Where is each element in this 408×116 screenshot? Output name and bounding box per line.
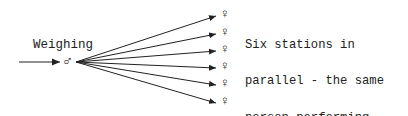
- female-symbol-icon: ♀: [221, 77, 229, 90]
- female-symbol-icon: ♀: [221, 8, 229, 21]
- female-symbol-icon: ♀: [221, 95, 229, 108]
- weighing-label: Weighing: [33, 38, 93, 52]
- female-symbol-icon: ♀: [221, 43, 229, 56]
- male-symbol-icon: ♂: [63, 54, 72, 69]
- description-text: Six stations in parallel - the same pers…: [245, 14, 391, 116]
- female-symbol-icon: ♀: [221, 26, 229, 39]
- female-symbol-icon: ♀: [221, 60, 229, 73]
